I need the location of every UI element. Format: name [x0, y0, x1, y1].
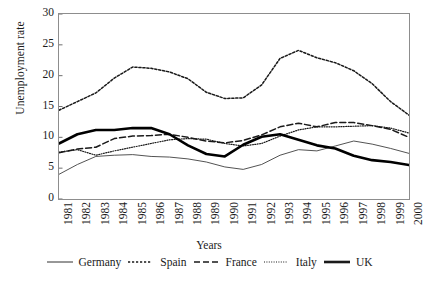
legend-label: Germany — [79, 256, 122, 268]
legend-item-france[interactable]: France — [193, 256, 257, 268]
legend-swatch-italy-icon — [263, 256, 293, 268]
legend-item-uk[interactable]: UK — [323, 256, 373, 268]
x-tick-label: 1986 — [155, 202, 167, 225]
x-tick-label: 1998 — [376, 202, 388, 225]
legend-item-germany[interactable]: Germany — [46, 256, 122, 268]
x-tick-label: 1996 — [339, 202, 351, 225]
y-axis-title: Unemployment rate — [14, 0, 26, 148]
x-axis-title: Years — [0, 239, 418, 251]
legend-swatch-spain-icon — [127, 256, 157, 268]
x-tick-label: 1995 — [321, 202, 333, 225]
y-tick-label: 30 — [30, 7, 54, 19]
x-tick-label: 1987 — [174, 202, 186, 225]
x-tick-label: 1984 — [118, 202, 130, 225]
x-tick-label: 2000 — [413, 202, 425, 225]
y-tick-label: 25 — [30, 38, 54, 50]
legend-item-spain[interactable]: Spain — [127, 256, 186, 268]
y-tick-label: 10 — [30, 130, 54, 142]
y-tick-label: 15 — [30, 100, 54, 112]
legend-label: UK — [356, 256, 373, 268]
x-axis-tick-labels: 1981198219831984198519861987198819891990… — [58, 200, 410, 240]
x-tick-label: 1990 — [229, 202, 241, 225]
chart-lines — [59, 14, 409, 199]
legend-label: Italy — [296, 256, 317, 268]
legend-item-italy[interactable]: Italy — [263, 256, 317, 268]
y-tick-label: 20 — [30, 69, 54, 81]
x-tick-label: 1994 — [302, 202, 314, 225]
x-tick-label: 1985 — [137, 202, 149, 225]
series-line-uk — [59, 128, 409, 165]
x-tick-label: 1983 — [100, 202, 112, 225]
legend-label: Spain — [160, 256, 186, 268]
x-tick-label: 1989 — [210, 202, 222, 225]
y-tick-label: 0 — [30, 192, 54, 204]
series-line-spain — [59, 50, 409, 115]
chart-legend: GermanySpainFranceItalyUK — [0, 256, 418, 268]
x-tick-label: 1992 — [266, 202, 278, 225]
x-tick-label: 1993 — [284, 202, 296, 225]
y-tick-label: 5 — [30, 161, 54, 173]
x-tick-label: 1988 — [192, 202, 204, 225]
plot-area — [58, 13, 410, 200]
legend-label: France — [226, 256, 257, 268]
x-tick-label: 1997 — [358, 202, 370, 225]
legend-swatch-uk-icon — [323, 256, 353, 268]
x-tick-label: 1991 — [247, 202, 259, 225]
x-tick-label: 1982 — [81, 202, 93, 225]
legend-swatch-germany-icon — [46, 256, 76, 268]
legend-swatch-france-icon — [193, 256, 223, 268]
x-tick-label: 1999 — [395, 202, 407, 225]
series-line-france — [59, 123, 409, 153]
x-tick-label: 1981 — [63, 202, 75, 225]
